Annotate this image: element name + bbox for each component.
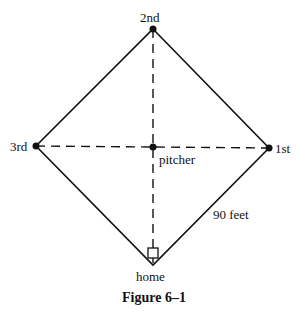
first-base-dot [266, 145, 273, 152]
second-base-dot [150, 26, 157, 33]
right-angle-marker [148, 248, 158, 258]
second-base-label: 2nd [140, 11, 160, 24]
pitcher-dot [150, 144, 157, 151]
pitcher-label: pitcher [159, 153, 195, 166]
figure-caption: Figure 6–1 [122, 291, 186, 305]
third-base-dot [33, 143, 40, 150]
baseball-diamond [0, 0, 306, 313]
third-base-label: 3rd [10, 140, 27, 153]
side-length-label: 90 feet [213, 208, 249, 221]
home-label: home [136, 270, 165, 283]
first-base-label: 1st [275, 142, 290, 155]
